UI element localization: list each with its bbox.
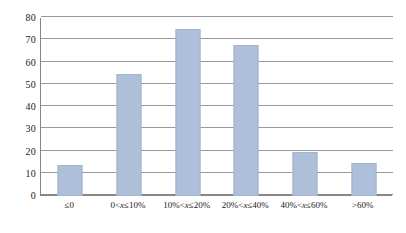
bar-series: [41, 18, 393, 196]
x-axis-tick-label: >60%: [333, 200, 392, 211]
bar-slot: [158, 18, 217, 196]
y-axis-tick-label: 20: [2, 147, 36, 157]
x-axis-tick-label: 0<x≤10%: [99, 200, 158, 211]
bar-slot: [276, 18, 335, 196]
bar-slot: [41, 18, 100, 196]
y-axis-tick-label: 0: [2, 191, 36, 201]
y-axis-tick-label: 30: [2, 124, 36, 134]
x-axis-tick-label: 40%<x≤60%: [275, 200, 334, 211]
bar[interactable]: [58, 165, 83, 196]
bar-slot: [100, 18, 159, 196]
bar[interactable]: [175, 29, 200, 196]
x-axis-tick-label: 10%<x≤20%: [157, 200, 216, 211]
bar[interactable]: [116, 74, 141, 196]
x-axis: ≤00<x≤10%10%<x≤20%20%<x≤40%40%<x≤60%>60%: [40, 200, 392, 220]
y-axis-tick-label: 10: [2, 169, 36, 179]
bar-slot: [334, 18, 393, 196]
y-axis-tick-label: 40: [2, 102, 36, 112]
bar-slot: [217, 18, 276, 196]
y-axis-tick-label: 50: [2, 80, 36, 90]
bar[interactable]: [292, 152, 317, 197]
plot-area: [40, 18, 392, 196]
y-axis-tick-label: 80: [2, 13, 36, 23]
gridline: [41, 16, 393, 17]
bar[interactable]: [234, 45, 259, 196]
y-axis-tick-label: 60: [2, 58, 36, 68]
bar[interactable]: [351, 163, 376, 196]
bar-chart: 01020304050607080 ≤00<x≤10%10%<x≤20%20%<…: [0, 0, 406, 233]
x-axis-tick-label: 20%<x≤40%: [216, 200, 275, 211]
y-axis-tick-label: 70: [2, 35, 36, 45]
x-axis-tick-label: ≤0: [40, 200, 99, 211]
y-axis: 01020304050607080: [0, 0, 36, 233]
